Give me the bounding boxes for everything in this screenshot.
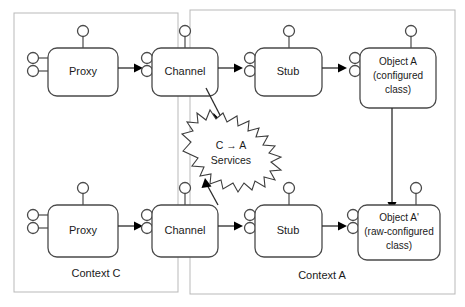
context-c-label: Context C xyxy=(72,267,121,279)
component-label: Proxy xyxy=(69,224,98,236)
services-burst[interactable]: C → A Services xyxy=(182,110,281,192)
diagram-svg: Context C Context A Proxy xyxy=(0,0,465,307)
component-object-a[interactable]: Object A (configured class) xyxy=(350,26,437,109)
component-stub-top[interactable]: Stub xyxy=(245,26,323,97)
required-interface-socket-icon[interactable] xyxy=(28,53,39,64)
provided-interface-lollipop-icon[interactable] xyxy=(406,26,417,37)
connector-channel-to-stub-top xyxy=(218,64,243,73)
connector-stub-to-object-a xyxy=(322,64,347,73)
component-object-a-prime[interactable]: Object A' (raw-configured class) xyxy=(348,183,441,261)
required-interface-socket-icon[interactable] xyxy=(142,223,153,234)
component-label: Stub xyxy=(277,65,300,77)
required-interface-socket-icon[interactable] xyxy=(28,210,39,221)
required-interface-socket-icon[interactable] xyxy=(245,210,256,221)
required-interface-socket-icon[interactable] xyxy=(28,223,39,234)
connector-proxy-to-channel-top xyxy=(118,64,143,73)
component-label: Channel xyxy=(165,65,206,77)
required-interface-socket-icon[interactable] xyxy=(348,210,359,221)
component-label: Channel xyxy=(165,224,206,236)
required-interface-socket-icon[interactable] xyxy=(142,66,153,77)
required-interface-socket-icon[interactable] xyxy=(142,210,153,221)
required-interface-socket-icon[interactable] xyxy=(245,66,256,77)
component-proxy-bottom[interactable]: Proxy xyxy=(28,183,119,258)
component-label-line1: Object A xyxy=(379,56,417,67)
required-interface-socket-icon[interactable] xyxy=(348,223,359,234)
provided-interface-lollipop-icon[interactable] xyxy=(180,26,191,37)
services-burst-label-line2: Services xyxy=(211,154,251,166)
context-a-label: Context A xyxy=(298,269,346,281)
connector-proxy-to-channel-bottom xyxy=(118,222,143,231)
provided-interface-lollipop-icon[interactable] xyxy=(411,183,422,194)
provided-interface-lollipop-icon[interactable] xyxy=(284,26,295,37)
connector-stub-to-object-a-prime xyxy=(322,222,347,231)
component-channel-top[interactable]: Channel xyxy=(142,26,219,97)
required-interface-socket-icon[interactable] xyxy=(142,53,153,64)
component-proxy-top[interactable]: Proxy xyxy=(28,26,119,97)
component-stub-bottom[interactable]: Stub xyxy=(245,183,323,258)
required-interface-socket-icon[interactable] xyxy=(350,66,361,77)
component-label-line3: class) xyxy=(385,84,411,95)
component-label-line3: class) xyxy=(386,240,412,251)
required-interface-socket-icon[interactable] xyxy=(245,53,256,64)
services-burst-label-line1: C → A xyxy=(216,139,246,151)
required-interface-socket-icon[interactable] xyxy=(28,66,39,77)
component-label-line1: Object A' xyxy=(379,212,419,223)
component-channel-bottom[interactable]: Channel xyxy=(142,183,219,258)
provided-interface-lollipop-icon[interactable] xyxy=(284,183,295,194)
component-label-line2: (configured xyxy=(373,70,423,81)
provided-interface-lollipop-icon[interactable] xyxy=(78,183,89,194)
connector-object-a-to-object-a-prime xyxy=(388,108,397,211)
component-label-line2: (raw-configured xyxy=(364,226,433,237)
component-label: Stub xyxy=(277,224,300,236)
diagram-canvas: Context C Context A Proxy xyxy=(0,0,465,307)
component-label: Proxy xyxy=(69,65,98,77)
provided-interface-lollipop-icon[interactable] xyxy=(78,26,89,37)
connector-channel-to-stub-bottom xyxy=(218,222,243,231)
required-interface-socket-icon[interactable] xyxy=(245,223,256,234)
provided-interface-lollipop-icon[interactable] xyxy=(180,183,191,194)
required-interface-socket-icon[interactable] xyxy=(350,53,361,64)
